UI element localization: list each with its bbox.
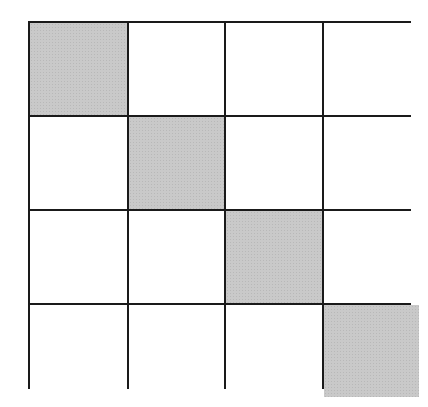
empty-cell bbox=[226, 305, 322, 397]
empty-cell bbox=[226, 117, 322, 209]
empty-cell bbox=[129, 305, 224, 397]
diagonal-grid bbox=[28, 21, 411, 389]
empty-cell bbox=[129, 23, 224, 115]
shaded-cell bbox=[226, 211, 322, 303]
empty-cell bbox=[324, 117, 419, 209]
empty-cell bbox=[226, 23, 322, 115]
shaded-cell bbox=[324, 305, 419, 397]
empty-cell bbox=[129, 211, 224, 303]
empty-cell bbox=[30, 211, 127, 303]
empty-cell bbox=[30, 117, 127, 209]
empty-cell bbox=[30, 305, 127, 397]
shaded-cell bbox=[30, 23, 127, 115]
empty-cell bbox=[324, 211, 419, 303]
empty-cell bbox=[324, 23, 419, 115]
shaded-cell bbox=[129, 117, 224, 209]
